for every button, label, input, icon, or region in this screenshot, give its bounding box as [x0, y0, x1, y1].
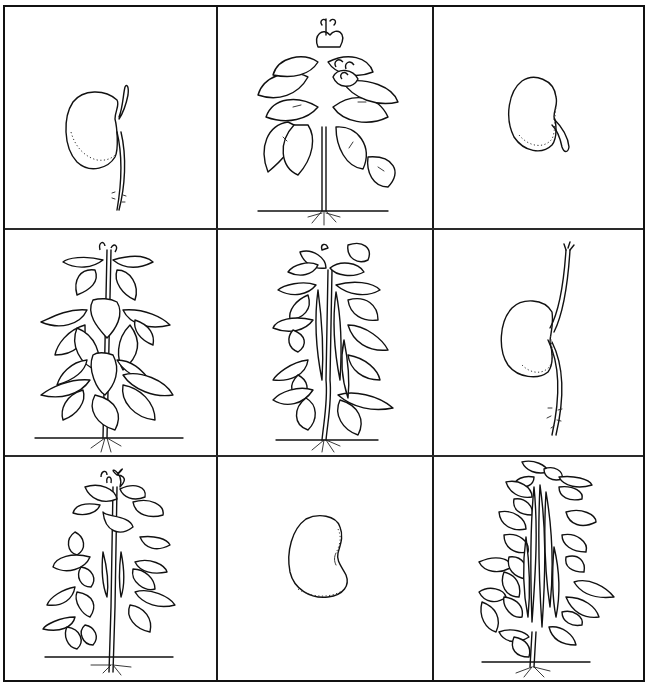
cell-germinating-seed	[5, 7, 216, 228]
cell-plant-with-young-pods	[218, 230, 432, 455]
young-leafy-plant-illustration	[5, 230, 216, 455]
cell-dry-seed	[218, 457, 432, 684]
cell-plant-with-flowers-and-pods	[5, 457, 216, 684]
dry-seed-illustration	[218, 457, 432, 684]
cell-young-leafy-plant	[5, 230, 216, 455]
cell-seedling-with-long-shoot	[434, 230, 645, 455]
cell-mature-plant-with-pods	[434, 457, 645, 684]
plant-with-young-pods-illustration	[218, 230, 432, 455]
seed-with-radicle-illustration	[434, 7, 645, 228]
growth-stage-grid	[3, 5, 645, 682]
plant-with-flowers-and-pods-illustration	[5, 457, 216, 684]
mature-plant-with-pods-illustration	[434, 457, 645, 684]
seedling-with-long-shoot-illustration	[434, 230, 645, 455]
cell-seed-with-radicle	[434, 7, 645, 228]
cell-flowering-plant	[218, 7, 432, 228]
germinating-seed-illustration	[5, 7, 216, 228]
flowering-plant-illustration	[218, 7, 432, 228]
